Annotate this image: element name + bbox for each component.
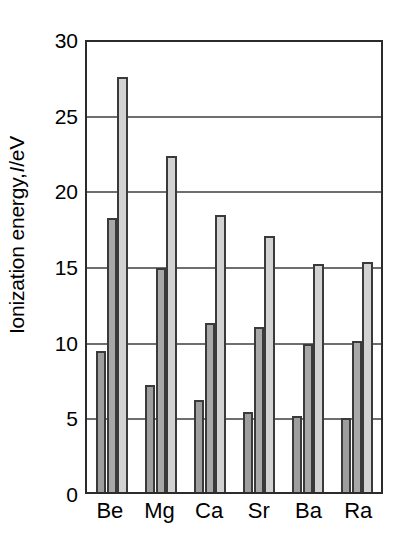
y-tick-label: 5 <box>38 408 78 429</box>
y-axis-title: Ionization energy, I/eV <box>0 0 34 470</box>
x-tick-label-ba: Ba <box>284 499 334 539</box>
y-axis-title-text: Ionization energy, <box>5 173 29 334</box>
bars-layer <box>87 42 381 492</box>
bar-mg-series1[interactable] <box>145 385 155 492</box>
y-tick-label: 25 <box>38 105 78 126</box>
bar-sr-series2[interactable] <box>254 327 264 492</box>
bar-ca-series2[interactable] <box>205 323 215 492</box>
x-tick-label-ca: Ca <box>184 499 234 539</box>
bar-mg-series2[interactable] <box>156 268 166 492</box>
bar-ba-series2[interactable] <box>303 344 313 492</box>
x-tick-label-mg: Mg <box>135 499 185 539</box>
y-tick-label: 15 <box>38 257 78 278</box>
bar-sr-series1[interactable] <box>243 412 253 492</box>
bar-ra-series2[interactable] <box>352 341 362 492</box>
bar-ca-series1[interactable] <box>194 400 204 492</box>
x-tick-label-be: Be <box>85 499 135 539</box>
y-axis-tick-labels: 051015202530 <box>38 0 78 547</box>
y-axis-title-symbol: I <box>5 167 29 174</box>
x-tick-label-sr: Sr <box>234 499 284 539</box>
y-tick-label: 30 <box>38 30 78 51</box>
y-tick-label: 10 <box>38 332 78 353</box>
bar-group-sr <box>234 42 283 492</box>
y-tick-label: 0 <box>38 484 78 505</box>
bar-be-series2[interactable] <box>107 218 117 492</box>
bar-group-mg <box>136 42 185 492</box>
bar-group-ra <box>332 42 381 492</box>
y-axis-title-units: /eV <box>5 136 29 167</box>
bar-sr-series3[interactable] <box>264 236 274 492</box>
bar-group-ca <box>185 42 234 492</box>
bar-ba-series1[interactable] <box>292 416 302 492</box>
bar-chart: Ionization energy, I/eV 051015202530 BeM… <box>0 0 419 547</box>
bar-group-be <box>87 42 136 492</box>
bar-group-ba <box>283 42 332 492</box>
plot-area <box>85 40 383 494</box>
y-tick-label: 20 <box>38 181 78 202</box>
bar-mg-series3[interactable] <box>166 156 176 492</box>
x-axis-tick-labels: BeMgCaSrBaRa <box>85 499 383 539</box>
x-tick-label-ra: Ra <box>333 499 383 539</box>
bar-be-series1[interactable] <box>96 351 106 492</box>
bar-ba-series3[interactable] <box>313 264 323 493</box>
bar-ca-series3[interactable] <box>215 215 225 492</box>
bar-be-series3[interactable] <box>117 77 127 492</box>
bar-ra-series1[interactable] <box>341 418 351 492</box>
bar-ra-series3[interactable] <box>362 262 372 492</box>
